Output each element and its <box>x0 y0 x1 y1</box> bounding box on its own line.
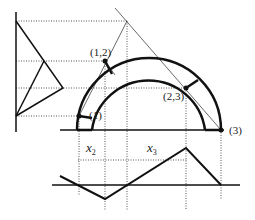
label-point-3: (3) <box>229 124 242 137</box>
label-point-2-3: (2,3) <box>163 90 184 103</box>
point-1 <box>77 114 82 119</box>
label-x2: x2 <box>85 140 96 157</box>
label-x3: x3 <box>146 140 157 157</box>
label-point-1: (1) <box>89 109 102 122</box>
point-3 <box>219 128 224 133</box>
diagram-canvas: (1) (1,2) (2,3) (3) x2 x3 <box>0 0 255 220</box>
label-point-1-2: (1,2) <box>90 46 111 59</box>
node-points <box>77 59 224 133</box>
left-triangle <box>16 21 63 116</box>
point-1-2 <box>103 59 108 64</box>
point-2-3 <box>184 86 189 91</box>
horizontal-projection-lines <box>16 21 187 160</box>
bottom-zigzag <box>60 148 221 199</box>
